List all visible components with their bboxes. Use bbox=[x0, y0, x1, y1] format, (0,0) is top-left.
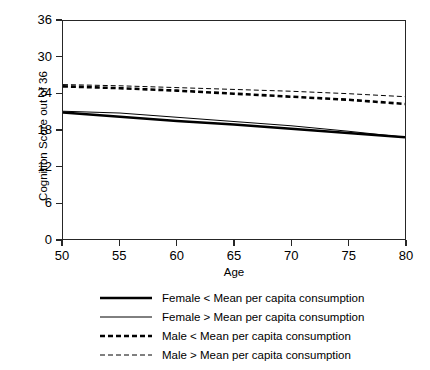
x-tick-mark bbox=[291, 240, 293, 246]
x-tick-label: 65 bbox=[214, 249, 254, 262]
x-tick-mark bbox=[348, 240, 350, 246]
x-axis-title: Age bbox=[62, 266, 406, 278]
legend-label: Female > Mean per capita consumption bbox=[162, 311, 364, 323]
y-tick-label: 24 bbox=[12, 86, 52, 99]
x-tick-label: 50 bbox=[42, 249, 82, 262]
legend-line-swatch bbox=[100, 329, 152, 343]
y-tick-label: 6 bbox=[12, 196, 52, 209]
legend-item[interactable]: Female > Mean per capita consumption bbox=[100, 307, 430, 326]
x-tick-label: 60 bbox=[157, 249, 197, 262]
data-lines bbox=[63, 21, 405, 239]
x-tick-label: 70 bbox=[271, 249, 311, 262]
x-tick-label: 55 bbox=[99, 249, 139, 262]
line-chart-figure: Cognition Score out of 36 061218243036 5… bbox=[0, 0, 430, 370]
legend-item[interactable]: Male > Mean per capita consumption bbox=[100, 345, 430, 364]
x-tick-mark bbox=[233, 240, 235, 246]
y-tick-label: 30 bbox=[12, 50, 52, 63]
plot-area bbox=[62, 20, 406, 240]
x-tick-mark bbox=[176, 240, 178, 246]
legend-line-swatch bbox=[100, 291, 152, 305]
y-tick-label: 18 bbox=[12, 123, 52, 136]
legend-label: Female < Mean per capita consumption bbox=[162, 292, 364, 304]
legend-label: Male > Mean per capita consumption bbox=[162, 349, 351, 361]
y-tick-label: 0 bbox=[12, 233, 52, 246]
x-tick-label: 80 bbox=[386, 249, 426, 262]
legend-line-swatch bbox=[100, 348, 152, 362]
y-tick-label: 36 bbox=[12, 13, 52, 26]
legend-label: Male < Mean per capita consumption bbox=[162, 330, 351, 342]
x-tick-mark bbox=[119, 240, 121, 246]
series-line-0 bbox=[63, 112, 405, 137]
x-tick-label: 75 bbox=[329, 249, 369, 262]
y-tick-label: 12 bbox=[12, 160, 52, 173]
chart-legend: Female < Mean per capita consumptionFema… bbox=[100, 288, 430, 364]
x-tick-mark bbox=[405, 240, 407, 246]
legend-item[interactable]: Male < Mean per capita consumption bbox=[100, 326, 430, 345]
legend-line-swatch bbox=[100, 310, 152, 324]
legend-item[interactable]: Female < Mean per capita consumption bbox=[100, 288, 430, 307]
x-tick-mark bbox=[61, 240, 63, 246]
